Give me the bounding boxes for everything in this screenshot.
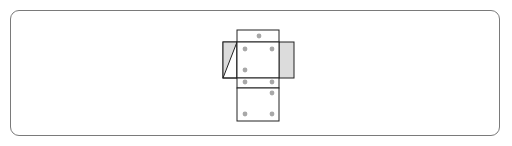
dot — [243, 47, 248, 52]
dot — [270, 80, 275, 85]
left-flap — [223, 42, 237, 78]
top-face — [237, 30, 279, 42]
strip-face — [237, 78, 279, 88]
center-face — [237, 42, 279, 78]
cube-net-diagram — [0, 0, 512, 146]
right-flap — [279, 42, 294, 78]
dot — [243, 68, 248, 73]
dot — [243, 80, 248, 85]
dot — [257, 34, 262, 39]
dot — [243, 112, 248, 117]
dot — [270, 112, 275, 117]
bottom-face — [237, 88, 279, 121]
dot — [270, 47, 275, 52]
dot — [270, 91, 275, 96]
